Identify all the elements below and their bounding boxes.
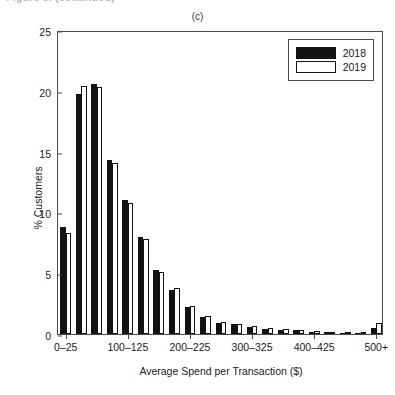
y-axis-tick-label: 15 [39, 148, 58, 160]
bar-2019-100–125 [128, 203, 133, 334]
y-axis-tick-mark [58, 336, 62, 337]
x-axis-tick-mark [376, 334, 377, 339]
y-axis-tick-label: 25 [39, 26, 58, 38]
bar-2019-150–175 [159, 272, 164, 334]
x-axis-tick-mark [66, 334, 67, 339]
legend-swatch-2018 [296, 47, 336, 59]
bar-2019-0–25 [66, 233, 71, 334]
bar-2019-200–225 [190, 306, 195, 334]
bar-2019-50–75 [97, 87, 102, 334]
panel-title: (c) [0, 11, 395, 22]
cropped-caption-strip: Figure 3. (continued) [0, 0, 395, 9]
x-axis-tick-mark [314, 334, 315, 339]
legend-label-2019: 2019 [343, 61, 366, 73]
legend-item-2019: 2019 [296, 61, 366, 73]
x-axis-tick-mark [252, 334, 253, 339]
x-axis-tick-label: 400–425 [294, 341, 335, 353]
bar-2019-250–275 [221, 322, 226, 334]
bar-2019-475–500 [361, 332, 366, 334]
y-axis-tick-label: 10 [39, 208, 58, 220]
bar-2019-350–375 [283, 329, 288, 334]
bar-2019-500+ [376, 323, 381, 334]
bar-2019-75–100 [112, 163, 117, 334]
legend-swatch-2019 [296, 61, 336, 73]
y-axis-tick-mark [58, 214, 62, 215]
y-axis-tick-mark [58, 153, 62, 154]
x-axis-tick-mark [128, 334, 129, 339]
y-axis-tick-mark [58, 275, 62, 276]
bar-2019-125–150 [143, 239, 148, 334]
y-axis-tick-mark [58, 32, 62, 33]
x-axis-tick-label: 300–325 [232, 341, 273, 353]
x-axis-tick-mark [190, 334, 191, 339]
x-axis-label: Average Spend per Transaction ($) [58, 365, 384, 377]
x-axis-tick-label: 0–25 [54, 341, 77, 353]
legend: 2018 2019 [288, 39, 374, 81]
y-axis-tick-label: 20 [39, 87, 58, 99]
x-axis-tick-label: 100–125 [107, 341, 148, 353]
bar-2019-425–450 [330, 332, 335, 334]
bar-2019-375–400 [299, 330, 304, 334]
bar-2019-25–50 [81, 86, 86, 334]
bar-2019-275–300 [237, 324, 242, 334]
bar-2019-175–200 [174, 288, 179, 334]
y-axis-tick-label: 5 [45, 269, 58, 281]
legend-label-2018: 2018 [343, 47, 366, 59]
bar-2019-300–325 [252, 326, 257, 334]
figure-panel-c: Figure 3. (continued) (c) % Customers 20… [0, 0, 395, 395]
bar-2019-325–350 [268, 328, 273, 334]
bar-2019-450–475 [345, 332, 350, 334]
plot-area: 2018 2019 Average Spend per Transaction … [57, 31, 383, 335]
x-axis-tick-label: 500+ [364, 341, 388, 353]
cropped-caption-text: Figure 3. (continued) [6, 0, 115, 3]
x-axis-tick-label: 200–225 [169, 341, 210, 353]
bar-2019-225–250 [205, 316, 210, 334]
y-axis-tick-mark [58, 92, 62, 93]
legend-item-2018: 2018 [296, 47, 366, 59]
